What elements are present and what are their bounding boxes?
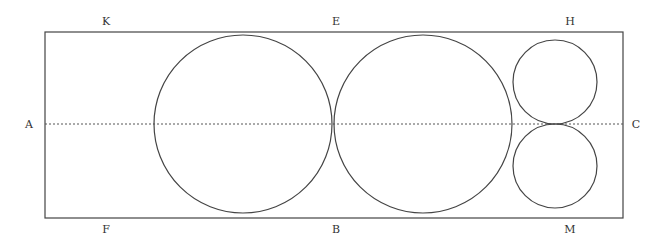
small-circle-bottom bbox=[513, 124, 597, 208]
label-a: A bbox=[24, 118, 34, 131]
label-b: B bbox=[332, 223, 340, 236]
label-e: E bbox=[332, 15, 340, 28]
geometry-diagram: K E H A C F B M bbox=[0, 0, 663, 246]
label-h: H bbox=[565, 15, 575, 28]
label-k: K bbox=[102, 15, 111, 28]
label-m: M bbox=[564, 223, 575, 236]
label-c: C bbox=[632, 118, 640, 131]
label-f: F bbox=[102, 223, 110, 236]
small-circle-top bbox=[513, 40, 597, 124]
